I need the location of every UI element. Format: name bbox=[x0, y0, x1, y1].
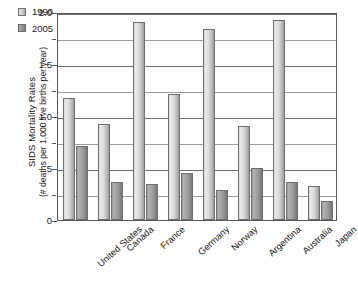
bar-japan-1990 bbox=[308, 186, 321, 220]
x-tick-label-japan: Japan bbox=[333, 225, 358, 249]
x-tick-label-norway: Norway bbox=[230, 225, 260, 253]
legend-item-2005: 2005 bbox=[18, 24, 53, 34]
x-tick-label-australia: Australia bbox=[301, 225, 334, 256]
y-tick-label: 1.0 bbox=[6, 112, 52, 122]
y-tick-label: 0 bbox=[6, 216, 52, 226]
y-tick-label: 1.5 bbox=[6, 60, 52, 70]
legend-swatch-1990-icon bbox=[18, 8, 26, 16]
y-tick-mark bbox=[52, 195, 56, 196]
x-tick-label-argentina: Argentina bbox=[267, 225, 303, 259]
legend-label-2005: 2005 bbox=[32, 24, 53, 34]
bar-group bbox=[58, 14, 337, 220]
y-tick-mark bbox=[52, 91, 56, 92]
plot-area bbox=[57, 13, 337, 221]
legend-label-1990: 1990 bbox=[32, 7, 53, 17]
legend-swatch-2005-icon bbox=[18, 24, 26, 32]
y-axis-ticks: 2.01.51.0.50 bbox=[0, 0, 52, 290]
y-tick-label: .5 bbox=[6, 164, 52, 174]
legend-item-1990: 1990 bbox=[18, 7, 53, 17]
legend: 1990 2005 bbox=[18, 7, 53, 40]
y-tick-mark bbox=[52, 143, 56, 144]
x-tick-label-germany: Germany bbox=[196, 225, 231, 257]
bars-container bbox=[58, 14, 336, 220]
x-axis-labels: United StatesCanadaFranceGermanyNorwayAr… bbox=[57, 221, 337, 290]
x-tick-label-france: France bbox=[159, 225, 187, 251]
bar-japan-2005 bbox=[321, 201, 334, 220]
